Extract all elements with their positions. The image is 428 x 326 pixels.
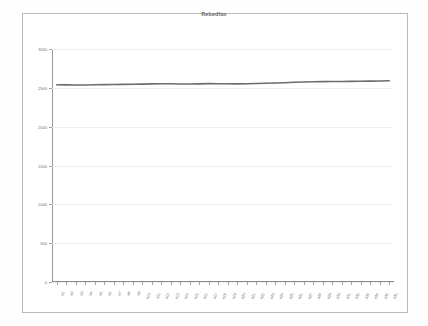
x-tick-mark: [247, 282, 248, 285]
x-tick-label: a18: [221, 292, 228, 300]
x-tick-mark: [57, 282, 58, 285]
y-tick-label: 3000: [38, 47, 47, 52]
x-tick-label: a26: [297, 292, 304, 300]
x-tick-mark: [199, 282, 200, 285]
x-tick-label: a20: [240, 292, 247, 300]
x-tick-mark: [123, 282, 124, 285]
x-tick-mark: [275, 282, 276, 285]
x-tick-label: a12: [164, 292, 171, 300]
x-tick-mark: [323, 282, 324, 285]
x-tick-mark: [304, 282, 305, 285]
x-tick-mark: [266, 282, 267, 285]
y-tick-label: 2000: [38, 124, 47, 129]
x-tick-label: a5: [97, 291, 103, 297]
x-tick-mark: [190, 282, 191, 285]
x-tick-mark: [180, 282, 181, 285]
x-tick-label: a10: [145, 292, 152, 300]
x-tick-label: a27: [306, 292, 313, 300]
x-tick-mark: [313, 282, 314, 285]
x-tick-label: a3: [78, 291, 84, 297]
y-tick-label: 1500: [38, 163, 47, 168]
x-tick-mark: [76, 282, 77, 285]
x-tick-label: a23: [268, 292, 275, 300]
x-tick-label: a22: [259, 292, 266, 300]
x-tick-mark: [95, 282, 96, 285]
chart-title: Rebedfas: [0, 11, 428, 17]
x-tick-mark: [218, 282, 219, 285]
x-tick-mark: [85, 282, 86, 285]
y-tick-label: 0: [45, 280, 47, 285]
x-tick-label: a8: [125, 291, 131, 297]
x-tick-mark: [370, 282, 371, 285]
x-tick-label: a6: [106, 291, 112, 297]
x-tick-label: a16: [202, 292, 209, 300]
x-tick-label: a7: [116, 291, 122, 297]
x-tick-mark: [228, 282, 229, 285]
x-tick-mark: [133, 282, 134, 285]
x-tick-label: a24: [278, 292, 285, 300]
x-tick-label: a17: [211, 292, 218, 300]
x-axis-ticks: a1a2a3a4a5a6a7a8a9a10a11a12a13a14a15a16a…: [52, 282, 394, 312]
y-tick-label: 2500: [38, 85, 47, 90]
x-tick-mark: [389, 282, 390, 285]
x-tick-label: a19: [230, 292, 237, 300]
x-tick-label: a15: [192, 292, 199, 300]
x-tick-mark: [256, 282, 257, 285]
x-tick-mark: [66, 282, 67, 285]
x-tick-mark: [152, 282, 153, 285]
x-tick-label: a9: [135, 291, 141, 297]
x-tick-label: a2: [68, 291, 74, 297]
x-tick-label: a33: [363, 292, 370, 300]
x-tick-label: a29: [325, 292, 332, 300]
x-tick-mark: [142, 282, 143, 285]
x-tick-label: a13: [173, 292, 180, 300]
x-tick-label: a21: [249, 292, 256, 300]
x-tick-mark: [361, 282, 362, 285]
x-tick-mark: [342, 282, 343, 285]
x-tick-mark: [114, 282, 115, 285]
x-tick-label: a1: [59, 291, 65, 297]
x-tick-label: a31: [344, 292, 351, 300]
x-tick-mark: [332, 282, 333, 285]
x-tick-label: a11: [154, 292, 161, 299]
x-tick-label: a34: [373, 292, 380, 300]
x-tick-label: a32: [354, 292, 361, 300]
series-1-line: [57, 81, 390, 85]
x-tick-mark: [380, 282, 381, 285]
x-tick-label: a30: [335, 292, 342, 300]
x-tick-mark: [351, 282, 352, 285]
x-tick-mark: [237, 282, 238, 285]
x-tick-label: a28: [316, 292, 323, 300]
series-line-chart: [52, 49, 394, 282]
x-tick-label: a14: [183, 292, 190, 300]
x-tick-mark: [171, 282, 172, 285]
x-tick-mark: [104, 282, 105, 285]
x-tick-label: a4: [87, 291, 93, 297]
y-tick-label: 500: [40, 241, 47, 246]
x-tick-mark: [161, 282, 162, 285]
x-tick-label: a35: [382, 292, 389, 300]
x-tick-mark: [285, 282, 286, 285]
x-tick-label: a25: [287, 292, 294, 300]
x-tick-mark: [209, 282, 210, 285]
x-tick-mark: [294, 282, 295, 285]
y-tick-label: 1000: [38, 202, 47, 207]
